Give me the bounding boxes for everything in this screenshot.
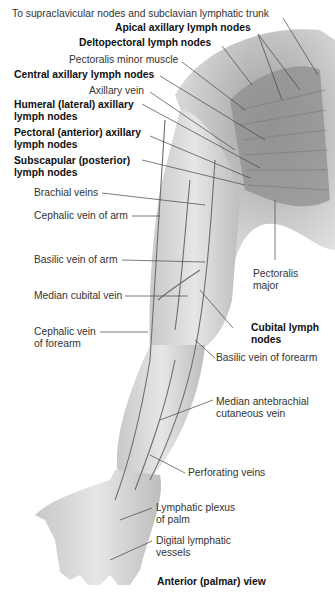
- label-humeral-nodes: Humeral (lateral) axillarylymph nodes: [14, 99, 134, 123]
- label-pectoral-nodes: Pectoral (anterior) axillarylymph nodes: [14, 127, 141, 151]
- label-central-nodes: Central axillary lymph nodes: [14, 69, 154, 81]
- label-brachial-veins: Brachial veins: [34, 187, 98, 199]
- label-pectoralis-minor: Pectoralis minor muscle: [69, 54, 178, 66]
- label-deltopectoral-nodes: Deltopectoral lymph nodes: [79, 37, 211, 49]
- label-supraclavicular: To supraclavicular nodes and subclavian …: [12, 8, 269, 20]
- label-pectoralis-major: Pectoralismajor: [253, 268, 298, 292]
- label-lymphatic-plexus: Lymphatic plexusof palm: [156, 502, 235, 526]
- label-cubital-nodes: Cubital lymphnodes: [251, 322, 319, 346]
- label-subscapular-nodes: Subscapular (posterior)lymph nodes: [14, 155, 130, 179]
- pectoralis-major: [230, 66, 330, 206]
- label-apical-nodes: Apical axillary lymph nodes: [115, 22, 251, 34]
- label-cephalic-vein-forearm: Cephalic veinof forearm: [34, 326, 96, 350]
- label-digital-lymphatics: Digital lymphaticvessels: [156, 535, 231, 559]
- label-cephalic-vein-arm: Cephalic vein of arm: [34, 210, 128, 222]
- view-caption: Anterior (palmar) view: [157, 576, 266, 588]
- label-basilic-vein-arm: Basilic vein of arm: [34, 254, 118, 266]
- label-basilic-vein-forearm: Basilic vein of forearm: [216, 352, 317, 364]
- label-median-cubital-vein: Median cubital vein: [34, 290, 122, 302]
- hand: [35, 470, 161, 585]
- label-perforating-veins: Perforating veins: [188, 467, 265, 479]
- label-median-antebrachial-vein: Median antebrachialcutaneous vein: [216, 396, 309, 420]
- label-axillary-vein: Axillary vein: [89, 85, 144, 97]
